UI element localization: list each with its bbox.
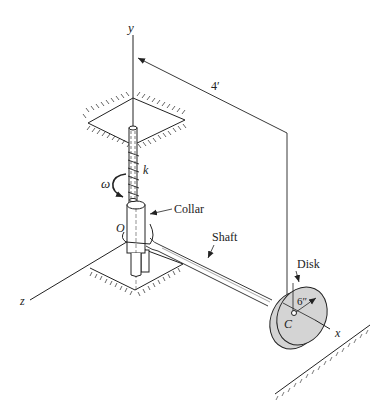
- shaft-leader: [208, 245, 214, 258]
- origin-label: O: [116, 221, 125, 235]
- omega-label: ω: [101, 176, 110, 191]
- y-axis-label: y: [126, 20, 134, 35]
- disk-radius-label: 6″: [297, 295, 307, 307]
- disk-leader: [296, 271, 299, 282]
- z-axis: z: [19, 240, 130, 308]
- spring-constant-label: k: [143, 163, 149, 177]
- collar-leader: [150, 209, 172, 214]
- disk-label: Disk: [297, 257, 320, 271]
- collar-label: Collar: [174, 202, 204, 216]
- disk-center-label: C: [284, 317, 293, 331]
- x-axis-label: x: [334, 326, 341, 340]
- vertical-rod: [129, 126, 137, 208]
- collar: [122, 198, 153, 290]
- diagram-canvas: y 4′ k ω z: [0, 0, 391, 415]
- shaft-length-label: 4′: [211, 79, 220, 93]
- shaft-length-dimension: 4′: [138, 58, 287, 300]
- shaft-label: Shaft: [212, 230, 238, 244]
- disk: [261, 279, 337, 358]
- shaft: [146, 238, 272, 306]
- angular-velocity-arrow: ω: [101, 174, 126, 197]
- z-axis-label: z: [19, 294, 25, 308]
